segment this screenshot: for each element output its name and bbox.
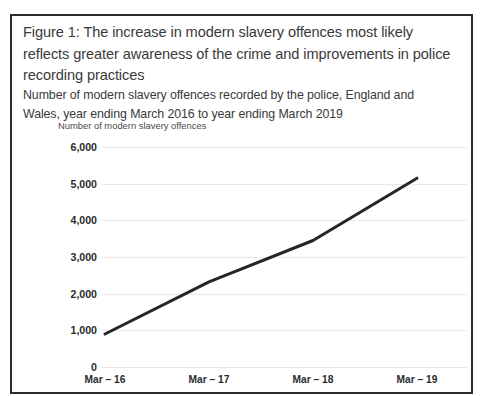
line-chart-plot-area: Number of modern slavery offences 01,000…	[12, 16, 475, 396]
series-line-modern-slavery-offences	[12, 16, 475, 396]
figure-frame: Figure 1: The increase in modern slavery…	[10, 14, 473, 394]
